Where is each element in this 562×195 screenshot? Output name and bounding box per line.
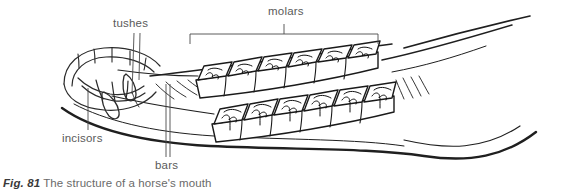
horse-mouth-diagram: [0, 0, 562, 195]
lower-jaw-sweep: [404, 126, 520, 146]
figure-container: tushes molars incisors bars Fig. 81The s…: [0, 0, 562, 195]
figure-number: Fig. 81: [3, 177, 40, 189]
label-tushes: tushes: [113, 18, 148, 30]
upper-cheek-sweep-1: [404, 16, 530, 48]
upper-cheek-sweep-2: [382, 25, 512, 60]
incisor-arch: [64, 48, 160, 111]
label-bars: bars: [155, 160, 178, 172]
label-incisors: incisors: [62, 133, 103, 145]
label-molars: molars: [268, 6, 304, 18]
upper-cheek-sweep-3: [392, 46, 486, 72]
incisor-arch-inner: [72, 57, 154, 86]
molars-bracket: [190, 24, 378, 44]
figure-caption: Fig. 81The structure of a horse's mouth: [3, 178, 212, 190]
figure-caption-text: The structure of a horse's mouth: [43, 177, 211, 189]
tush-teeth: [102, 74, 139, 119]
tush-lower: [102, 92, 119, 119]
jaw-contours: [62, 16, 536, 159]
tushes-leader-lines: [132, 33, 140, 94]
